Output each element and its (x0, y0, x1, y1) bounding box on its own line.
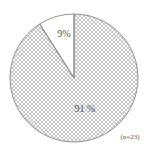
slice-label-large: 91 % (75, 103, 96, 114)
pie-slices (10, 14, 138, 142)
slice-label-small: 9% (57, 28, 70, 39)
pie-slice-1 (10, 14, 138, 142)
sample-size-annotation: (n=23) (120, 133, 140, 141)
pie-chart: 9% 91 % (n=23) (0, 0, 157, 163)
